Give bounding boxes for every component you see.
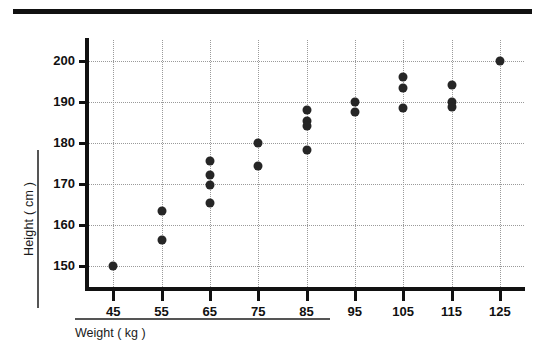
x-axis-tick (354, 291, 357, 301)
y-axis-tick (79, 142, 89, 145)
y-axis-tick-label: 200 (37, 53, 75, 68)
x-axis-tick-label: 45 (93, 304, 133, 319)
data-point (302, 145, 311, 154)
x-axis-tick-label: 55 (142, 304, 182, 319)
x-axis-tick-label: 125 (480, 304, 520, 319)
data-point (447, 81, 456, 90)
x-axis-tick-label: 65 (190, 304, 230, 319)
y-axis-tick-label: 150 (37, 258, 75, 273)
x-gridline (355, 40, 356, 287)
top-divider-rule (13, 9, 532, 14)
x-axis-tick (306, 291, 309, 301)
x-gridline (500, 40, 501, 287)
x-gridline (452, 40, 453, 287)
data-point (205, 198, 214, 207)
plot-area: 150160170180190200455565758595105115125 (89, 40, 524, 287)
data-point (495, 56, 504, 65)
data-point (205, 180, 214, 189)
data-point (447, 102, 456, 111)
x-axis-tick (161, 291, 164, 301)
data-point (399, 73, 408, 82)
data-point (157, 206, 166, 215)
x-gridline (307, 40, 308, 287)
data-point (399, 84, 408, 93)
y-axis-tick-label: 160 (37, 217, 75, 232)
data-point (350, 108, 359, 117)
x-axis-tick-label: 85 (287, 304, 327, 319)
data-point (302, 105, 311, 114)
data-point (254, 138, 263, 147)
data-point (109, 262, 118, 271)
x-axis-title: Weight ( kg ) (75, 326, 146, 340)
x-axis-tick-label: 115 (432, 304, 472, 319)
data-point (350, 97, 359, 106)
y-axis-title: Height ( cm ) (22, 144, 36, 294)
x-axis-tick (499, 291, 502, 301)
x-axis-tick-label: 75 (238, 304, 278, 319)
x-axis-tick (112, 291, 115, 301)
data-point (399, 103, 408, 112)
x-axis-tick (209, 291, 212, 301)
y-axis-tick (79, 183, 89, 186)
x-axis-tick-label: 95 (335, 304, 375, 319)
data-point (254, 161, 263, 170)
x-axis-tick (402, 291, 405, 301)
x-axis-tick (257, 291, 260, 301)
x-axis-tick (451, 291, 454, 301)
y-axis-title-group: Height ( cm ) (6, 150, 40, 310)
y-axis-tick (79, 224, 89, 227)
x-gridline (113, 40, 114, 287)
x-axis-tick-label: 105 (383, 304, 423, 319)
data-point (205, 171, 214, 180)
x-axis-title-rule (75, 318, 330, 320)
y-axis-tick (79, 60, 89, 63)
data-point (302, 122, 311, 131)
data-point (205, 157, 214, 166)
y-axis-tick-label: 180 (37, 135, 75, 150)
y-axis-tick (79, 101, 89, 104)
y-axis-tick (79, 265, 89, 268)
figure-canvas: Height ( cm ) 15016017018019020045556575… (0, 0, 547, 356)
y-axis-tick-label: 190 (37, 94, 75, 109)
data-point (157, 235, 166, 244)
x-gridline (162, 40, 163, 287)
y-axis-tick-label: 170 (37, 176, 75, 191)
